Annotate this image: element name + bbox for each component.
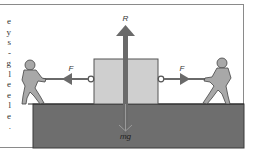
right-person-icon [203, 58, 231, 104]
left-hook-icon [88, 76, 94, 82]
right-force-arrow-icon [164, 73, 205, 85]
ground-block [33, 104, 244, 148]
left-person-icon [22, 60, 46, 104]
right-force-label: F [180, 64, 186, 73]
right-hook-icon [158, 76, 164, 82]
reaction-label: R [123, 14, 129, 23]
left-force-arrow-icon [43, 73, 88, 85]
force-diagram: R mg F F [0, 0, 258, 161]
left-force-label: F [69, 64, 75, 73]
weight-label: mg [120, 132, 132, 141]
